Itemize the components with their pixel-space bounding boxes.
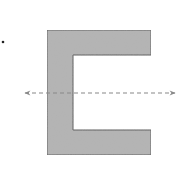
- marker-dot: [2, 41, 5, 44]
- channel-section-diagram: [0, 0, 190, 171]
